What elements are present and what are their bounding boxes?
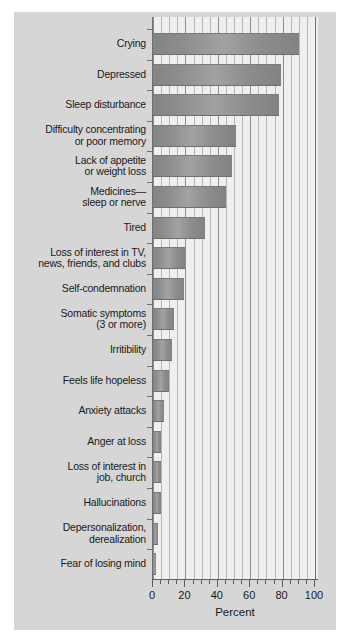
y-axis-tick (147, 60, 152, 61)
y-axis-tick (147, 488, 152, 489)
y-axis-tick (147, 213, 152, 214)
x-axis-tick-90 (298, 580, 299, 584)
y-axis-tick (147, 549, 152, 550)
category-label: Sleep disturbance (14, 99, 146, 111)
x-axis-tick-15 (176, 580, 177, 584)
category-label: Loss of interest in TV, news, friends, a… (14, 247, 146, 270)
gridline-85 (291, 17, 292, 579)
bar (153, 400, 164, 422)
x-axis-tick-85 (290, 580, 291, 584)
y-axis-tick (147, 90, 152, 91)
x-axis-tick-label: 100 (294, 589, 334, 601)
gridline-80 (283, 17, 284, 579)
bar (153, 186, 226, 208)
gridline-90 (299, 17, 300, 579)
x-axis-tick-0 (152, 580, 153, 587)
category-label: Hallucinations (14, 497, 146, 509)
bar (153, 125, 236, 147)
x-axis-tick-30 (201, 580, 202, 584)
category-label: Somatic symptoms (3 or more) (14, 308, 146, 331)
y-axis-tick (147, 519, 152, 520)
bar (153, 155, 232, 177)
y-axis-tick (147, 243, 152, 244)
bar (153, 339, 172, 361)
bar (153, 553, 156, 575)
category-label: Fear of losing mind (14, 558, 146, 570)
y-axis-tick (147, 396, 152, 397)
gridline-95 (307, 17, 308, 579)
x-axis-tick-75 (274, 580, 275, 584)
plot-area (152, 17, 318, 579)
y-axis-tick (147, 366, 152, 367)
gridline-100 (315, 17, 316, 579)
y-axis-tick (147, 29, 152, 30)
x-axis-title: Percent (152, 606, 318, 618)
bar-chart: CryingDepressedSleep disturbanceDifficul… (14, 12, 336, 630)
y-axis-tick (147, 151, 152, 152)
category-label-column: CryingDepressedSleep disturbanceDifficul… (14, 12, 152, 578)
x-axis-tick-5 (160, 580, 161, 584)
plot-inner (153, 17, 318, 579)
x-axis-tick-50 (233, 580, 234, 584)
y-axis-tick (147, 121, 152, 122)
y-axis-tick (147, 335, 152, 336)
x-axis-tick-100 (314, 580, 315, 587)
x-axis-tick-20 (184, 580, 185, 587)
category-label: Anger at loss (14, 436, 146, 448)
category-label: Loss of interest in job, church (14, 461, 146, 484)
x-axis-tick-25 (193, 580, 194, 584)
category-label: Tired (14, 222, 146, 234)
x-axis-tick-70 (265, 580, 266, 584)
x-axis-tick-10 (168, 580, 169, 584)
bar (153, 247, 185, 269)
x-axis-tick-40 (217, 580, 218, 587)
bar (153, 33, 299, 55)
category-label: Difficulty concentrating or poor memory (14, 124, 146, 147)
category-label: Depersonalization, derealization (14, 522, 146, 545)
bar (153, 64, 281, 86)
bar (153, 523, 158, 545)
x-axis-tick-65 (257, 580, 258, 584)
category-label: Medicines— sleep or nerve (14, 186, 146, 209)
x-axis-tick-95 (306, 580, 307, 584)
x-axis-tick-45 (225, 580, 226, 584)
bar (153, 94, 279, 116)
bar (153, 308, 174, 330)
y-axis-tick (147, 427, 152, 428)
bar (153, 278, 184, 300)
bar (153, 461, 161, 483)
category-label: Lack of appetite or weight loss (14, 155, 146, 178)
bar (153, 217, 205, 239)
bar (153, 370, 169, 392)
category-label: Crying (14, 38, 146, 50)
y-axis-tick (147, 274, 152, 275)
category-label: Anxiety attacks (14, 405, 146, 417)
y-axis-tick (147, 182, 152, 183)
category-label: Feels life hopeless (14, 375, 146, 387)
y-axis-tick (147, 304, 152, 305)
category-label: Depressed (14, 69, 146, 81)
x-axis-tick-55 (241, 580, 242, 584)
bar (153, 431, 161, 453)
x-axis-tick-80 (282, 580, 283, 587)
bar (153, 492, 161, 514)
x-axis-tick-35 (209, 580, 210, 584)
category-label: Irritibility (14, 344, 146, 356)
category-label: Self-condemnation (14, 283, 146, 295)
y-axis-tick (147, 457, 152, 458)
x-axis-tick-60 (249, 580, 250, 587)
